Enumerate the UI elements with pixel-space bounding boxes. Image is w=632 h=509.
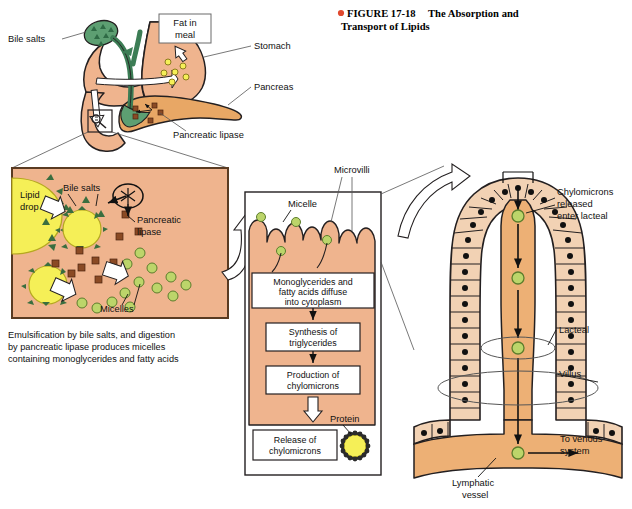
caption-line2: by pancreatic lipase produces micelles xyxy=(8,342,166,352)
label-stomach: Stomach xyxy=(254,41,291,51)
flow-step-synthesis-line1: Synthesis of xyxy=(289,327,338,337)
flow-step-release: Release of chylomicrons xyxy=(253,430,337,460)
label-bile-salts: Bile salts xyxy=(8,34,46,44)
svg-text:FIGURE 17-18 The Absorpt: FIGURE 17-18 The Absorption and xyxy=(347,8,519,19)
panel-overview: Bile salts Fat in meal Stomach Pancreas … xyxy=(8,14,294,168)
flow-step-production: Production of chylomicrons xyxy=(266,366,360,394)
hepatic-duct xyxy=(133,32,140,64)
panel-villus: Chylomicrons released enter lacteal Lact… xyxy=(414,172,622,500)
label-fat-in-meal-line2: meal xyxy=(175,30,195,40)
figure-number: FIGURE 17-18 xyxy=(347,8,416,19)
figure-title-line1: The Absorption and xyxy=(428,8,519,19)
label-to-venous-line2: system xyxy=(560,446,590,456)
flow-step-synthesis-line2: triglycerides xyxy=(289,338,337,348)
flow-step-diffuse: Monoglycerides and fatty acids diffuse i… xyxy=(252,273,374,308)
label-pancreatic-lipase-line2: lipase xyxy=(137,227,161,237)
caption-line1: Emulsification by bile salts, and digest… xyxy=(8,330,175,340)
figure-absorption-transport-lipids: FIGURE 17-18 The Absorption and Transpor… xyxy=(0,0,632,509)
label-protein: Protein xyxy=(330,414,359,424)
label-chylomicrons-line3: enter lacteal xyxy=(557,211,608,221)
label-chylomicrons-line1: Chylomicrons xyxy=(557,187,614,197)
label-pancreas: Pancreas xyxy=(254,82,294,92)
flow-step-production-line1: Production of xyxy=(287,370,340,380)
leader-stomach xyxy=(204,46,251,57)
label-pancreatic-lipase: Pancreatic lipase xyxy=(173,130,244,140)
label-fat-in-meal-box: Fat in meal xyxy=(159,14,211,43)
label-micelle: Micelle xyxy=(288,199,317,209)
flow-step-diffuse-line1: Monoglycerides and xyxy=(273,277,352,287)
panel-emulsification: Lipid drop xyxy=(8,168,228,364)
label-to-venous-line1: To venous xyxy=(560,434,603,444)
label-lipid-drop-line2: drop xyxy=(20,202,39,212)
figure-title-block: FIGURE 17-18 The Absorption and Transpor… xyxy=(338,8,519,32)
figure-bullet-icon xyxy=(338,10,344,16)
flow-step-synthesis: Synthesis of triglycerides xyxy=(266,323,360,351)
leader-pancreas xyxy=(228,87,251,105)
expansion-lines-to-villus xyxy=(381,166,444,350)
label-pancreatic-lipase-line1: Pancreatic xyxy=(137,215,181,225)
leader-lacteal xyxy=(548,330,556,345)
label-lymphatic-line1: Lymphatic xyxy=(452,478,494,488)
leader-bile-salts xyxy=(62,32,86,39)
label-lymphatic-line2: vessel xyxy=(462,490,488,500)
label-lipid-drop-line1: Lipid xyxy=(20,190,40,200)
label-villus: Villus xyxy=(559,369,581,379)
flow-step-diffuse-line3: into cytoplasm xyxy=(285,297,342,307)
label-fat-in-meal-line1: Fat in xyxy=(173,18,196,28)
flow-step-release-line2: chylomicrons xyxy=(269,446,321,456)
panel-epithelial: Monoglycerides and fatty acids diffuse i… xyxy=(245,165,381,475)
caption-line3: containing monoglycerides and fatty acid… xyxy=(8,354,179,364)
label-bile-salts-detail: Bile salts xyxy=(63,183,101,193)
label-lacteal: Lacteal xyxy=(559,325,589,335)
flow-step-diffuse-line2: fatty acids diffuse xyxy=(279,287,347,297)
label-micelles: Micelles xyxy=(100,304,134,314)
label-chylomicrons-line2: released xyxy=(557,199,593,209)
label-microvilli: Microvilli xyxy=(334,165,370,175)
flow-step-release-line1: Release of xyxy=(274,435,317,445)
flow-step-production-line2: chylomicrons xyxy=(287,381,339,391)
figure-title-line2: Transport of Lipids xyxy=(341,21,430,32)
